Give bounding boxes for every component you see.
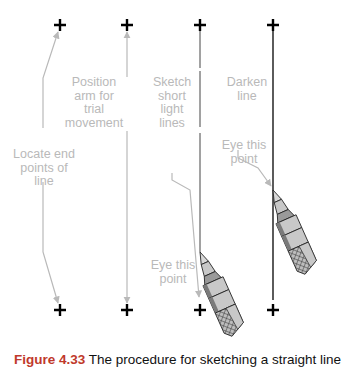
- label-darken-line: Darken line: [222, 76, 272, 103]
- label-eye-this-point-4: Eye this point: [217, 139, 271, 166]
- figure-caption-text: The procedure for sketching a straight l…: [89, 352, 341, 367]
- pencil-icon: [263, 186, 320, 277]
- step-3-sketch-lines: [172, 28, 200, 297]
- label-sketch-short-lines: Sketch short light lines: [146, 76, 198, 130]
- label-position-arm: Position arm for trial movement: [64, 76, 124, 130]
- label-eye-this-point-3: Eye this point: [146, 259, 200, 286]
- label-locate-end-points: Locate end points of line: [12, 148, 76, 189]
- figure-caption: Figure 4.33 The procedure for sketching …: [14, 352, 341, 368]
- figure-number: Figure 4.33: [14, 352, 85, 367]
